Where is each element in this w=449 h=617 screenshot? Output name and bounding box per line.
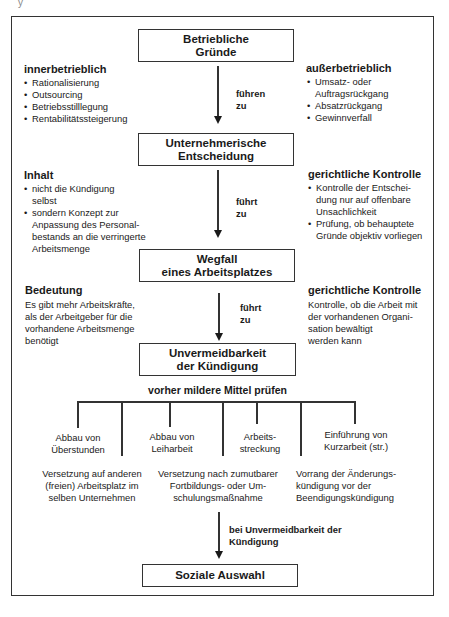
list-item: nicht die Kündigung selbst <box>24 183 146 207</box>
list-item: Rationalisierung <box>24 77 127 89</box>
bracket-tick <box>77 401 79 428</box>
list-item-line: Auftragsrückgang <box>315 88 388 100</box>
heading-gerichtliche-kontrolle: gerichtliche Kontrolle <box>308 168 421 181</box>
list-item: Absatzrückgang <box>307 100 388 112</box>
heading-innerbetrieblich: innerbetrieblich <box>24 63 107 76</box>
box-betriebliche-gruende: Betriebliche Gründe <box>138 29 294 62</box>
option-arbeitsstreckung: Arbeits- streckung <box>228 431 292 455</box>
option-line: selben Unternehmen <box>36 492 148 504</box>
list-innerbetrieblich: Rationalisierung Outsourcing Betriebssti… <box>24 77 127 125</box>
list-item: Umsatz- oder Auftragsrückgang <box>307 76 388 100</box>
option-line: Beendigungskündigung <box>296 492 406 504</box>
text-line: Kontrolle, ob die Arbeit mit <box>308 299 417 311</box>
option-versetzung-arbeitsplatz: Versetzung auf anderen (freien) Arbeitsp… <box>36 468 148 504</box>
arrow-line <box>217 66 219 118</box>
list-ausserbetrieblich: Umsatz- oder Auftragsrückgang Absatzrück… <box>307 76 388 124</box>
box-wegfall-arbeitsplatz: Wegfall eines Arbeitsplatzes <box>139 249 295 282</box>
heading-bedeutung: Bedeutung <box>25 284 82 297</box>
arrow-label-line: führen <box>236 88 265 100</box>
list-item: Gewinnverfall <box>307 112 388 124</box>
text-line: Es gibt mehr Arbeitskräfte, <box>25 299 135 311</box>
option-line: Einführung von <box>308 429 404 441</box>
list-item-line: Unsachlichkeit <box>316 206 422 218</box>
option-aenderungskuendigung: Vorrang der Änderungs- kündigung vor der… <box>296 468 406 504</box>
arrow-label-line: Kündigung <box>229 536 342 548</box>
option-versetzung-fortbildung: Versetzung nach zumutbarer Fortbildungs-… <box>154 468 282 504</box>
option-line: Kurzarbeit (str.) <box>308 441 404 453</box>
box-unvermeidbarkeit: Unvermeidbarkeit der Kündigung <box>139 343 296 376</box>
text-line: der vorhandenen Organi- <box>308 311 417 323</box>
option-line: Abbau von <box>40 432 116 444</box>
bracket-tick <box>354 401 356 424</box>
text-gerichtliche-kontrolle: Kontrolle, ob die Arbeit mit der vorhand… <box>308 299 417 347</box>
text-line: vorhandene Arbeitsmenge <box>25 323 135 335</box>
arrow-label-line: führt <box>236 196 257 208</box>
bracket-divider <box>300 401 302 456</box>
list-gerichtliche-kontrolle: Kontrolle der Entschei- dung nur auf off… <box>308 182 422 242</box>
option-line: Fortbildungs- oder Um- <box>154 480 282 492</box>
box-line: Unvermeidbarkeit <box>169 347 266 360</box>
arrow-label-line: zu <box>236 208 257 220</box>
arrow-label-line: zu <box>240 314 261 326</box>
box-line: der Kündigung <box>169 360 266 373</box>
box-line: Gründe <box>183 46 249 59</box>
list-item-line: dung nur auf offenbare <box>316 194 422 206</box>
bracket-divider <box>222 401 224 456</box>
option-line: Abbau von <box>132 431 212 443</box>
text-line: als der Arbeitgeber für die <box>25 311 135 323</box>
box-unternehmerische-entscheidung: Unternehmerische Entscheidung <box>138 133 294 166</box>
list-item: Kontrolle der Entschei- dung nur auf off… <box>308 182 422 218</box>
list-item: Prüfung, ob behauptete Gründe objektiv v… <box>308 218 422 242</box>
list-item-line: Umsatz- oder <box>315 76 388 88</box>
list-item-line: sondern Konzept zur <box>32 207 146 219</box>
list-item-line: Kontrolle der Entschei- <box>316 182 422 194</box>
bracket-tick <box>256 401 258 424</box>
list-item-line: Gründe objektiv vorliegen <box>316 230 422 242</box>
heading-inhalt: Inhalt <box>24 169 53 182</box>
box-soziale-auswahl: Soziale Auswahl <box>142 564 298 587</box>
option-line: Überstunden <box>40 444 116 456</box>
list-item: Outsourcing <box>24 89 127 101</box>
arrow-line <box>218 512 220 554</box>
bracket-divider <box>121 401 123 456</box>
option-line: kündigung vor der <box>296 480 406 492</box>
arrow-label-line: zu <box>236 100 265 112</box>
text-line: sation bewältigt <box>308 323 417 335</box>
text-bedeutung: Es gibt mehr Arbeitskräfte, als der Arbe… <box>25 299 135 347</box>
option-kurzarbeit: Einführung von Kurzarbeit (str.) <box>308 429 404 453</box>
list-item-line: Arbeitsmenge <box>32 243 146 255</box>
text-line: werden kann <box>308 335 417 347</box>
list-item: Rentabilitätssteigerung <box>24 113 127 125</box>
list-item-line: nicht die Kündigung <box>32 183 146 195</box>
heading-ausserbetrieblich: außerbetrieblich <box>306 62 392 75</box>
option-line: streckung <box>228 443 292 455</box>
heading-gerichtliche-kontrolle-2: gerichtliche Kontrolle <box>308 284 421 297</box>
arrow-line <box>218 293 220 335</box>
arrow-down-icon <box>215 333 223 341</box>
box-line: Betriebliche <box>183 33 249 46</box>
arrow-down-icon <box>214 230 222 238</box>
option-line: schulungsmaßnahme <box>154 492 282 504</box>
arrow-label-bei-unvermeidbarkeit: bei Unvermeidbarkeit der Kündigung <box>229 524 342 548</box>
text-line: benötigt <box>25 335 135 347</box>
list-item-line: bestands an die verringerte <box>32 231 146 243</box>
arrow-line <box>217 170 219 232</box>
arrow-down-icon <box>214 116 222 124</box>
arrow-label-fuehrt-zu: führt zu <box>240 302 261 326</box>
arrow-label-line: bei Unvermeidbarkeit der <box>229 524 342 536</box>
arrow-label-line: führt <box>240 302 261 314</box>
bracket-tick <box>169 401 171 427</box>
arrow-label-fuehrt-zu: führt zu <box>236 196 257 220</box>
box-line: Unternehmerische <box>166 137 267 150</box>
box-line: Wegfall <box>162 253 273 266</box>
option-line: Leiharbeit <box>132 443 212 455</box>
list-item-line: selbst <box>32 195 146 207</box>
list-inhalt: nicht die Kündigung selbst sondern Konze… <box>24 183 146 255</box>
option-abbau-leiharbeit: Abbau von Leiharbeit <box>132 431 212 455</box>
option-line: (freien) Arbeitsplatz im <box>36 480 148 492</box>
box-line: Entscheidung <box>166 150 267 163</box>
option-abbau-ueberstunden: Abbau von Überstunden <box>40 432 116 456</box>
box-line: eines Arbeitsplatzes <box>162 266 273 279</box>
option-line: Arbeits- <box>228 431 292 443</box>
cropped-text-fragment: y <box>18 0 23 8</box>
